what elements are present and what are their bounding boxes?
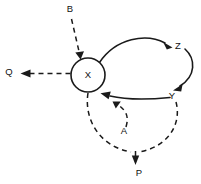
edge-z-to-y (173, 49, 193, 92)
edge-y-to-x (101, 92, 171, 100)
edge-z-to-y-path (180, 49, 193, 86)
node-label-y: Y (169, 91, 176, 101)
edge-to-p-arrowhead (132, 156, 139, 166)
edge-x-to-q (21, 69, 71, 77)
node-label-x: X (85, 70, 92, 80)
edge-x-to-z-path (100, 38, 166, 62)
edge-x-to-z-arrowhead (163, 42, 172, 49)
edge-y-to-x-path (110, 96, 170, 99)
node-label-a: A (121, 126, 128, 136)
node-label-q: Q (5, 67, 13, 77)
edge-b-to-x (72, 19, 85, 60)
edge-x-to-q-arrowhead (21, 69, 31, 77)
edge-x-to-z (100, 38, 173, 62)
node-label-b: B (67, 4, 74, 14)
edge-y-to-x-arrowhead (101, 92, 111, 100)
edge-a-to-x (113, 102, 128, 128)
edge-b-to-x-path (72, 19, 80, 54)
edge-x-to-p-path (87, 93, 131, 152)
node-label-z: Z (175, 41, 181, 51)
edge-to-p-arrow (132, 151, 139, 165)
node-label-p: P (136, 168, 143, 178)
edge-y-to-p-path (139, 102, 177, 152)
edge-y-to-p (139, 102, 177, 152)
edge-x-to-p (87, 93, 131, 152)
edge-a-to-x-path (119, 106, 127, 128)
diagram-canvas: X B Q Z Y A P (0, 0, 201, 184)
edge-a-to-x-arrowhead (113, 102, 121, 109)
